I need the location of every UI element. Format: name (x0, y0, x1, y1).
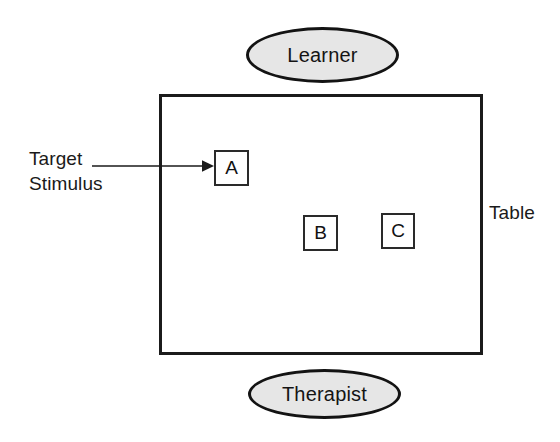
learner-label: Learner (287, 44, 357, 66)
stimulus-card-c-label: C (391, 221, 405, 241)
stimulus-card-b-label: B (314, 223, 327, 243)
target-stimulus-arrow-icon (90, 152, 215, 180)
diagram-canvas: Learner Table A B C Target Stimulus Ther… (0, 0, 560, 442)
therapist-node: Therapist (248, 369, 401, 419)
stimulus-card-a-label: A (225, 158, 238, 178)
therapist-label: Therapist (282, 383, 367, 405)
stimulus-card-b: B (303, 215, 338, 251)
learner-node: Learner (246, 27, 399, 83)
table-label: Table (489, 201, 535, 225)
stimulus-card-c: C (381, 213, 415, 249)
stimulus-card-a: A (214, 150, 249, 186)
